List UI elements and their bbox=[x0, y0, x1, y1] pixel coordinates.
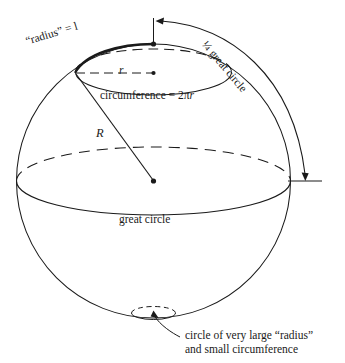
figure-canvas: “radius” = l ¼ great circle r circumfere… bbox=[0, 0, 345, 363]
small-circle-annotation-line-2: and small circumference bbox=[185, 343, 313, 357]
bottom-annotation-arrowhead bbox=[151, 311, 159, 319]
great-circle-front-solid bbox=[17, 181, 291, 215]
label-great-circle: great circle bbox=[119, 213, 170, 227]
quarter-arc-arrowhead-top bbox=[156, 18, 165, 25]
circumference-text: circumference = 2 bbox=[100, 89, 184, 101]
label-sphere-radius-R: R bbox=[96, 126, 104, 141]
sphere-diagram-svg bbox=[0, 0, 345, 363]
radius-r-symbol: r bbox=[190, 89, 194, 101]
quarter-arc-arrowhead-bottom bbox=[302, 173, 309, 182]
great-circle-back-dashed bbox=[17, 147, 291, 181]
small-circle-center-dot bbox=[151, 71, 155, 75]
small-circle-annotation-line-1: circle of very large “radius” bbox=[185, 329, 313, 341]
radius-arc-thick bbox=[76, 44, 154, 72]
label-circumference-formula: circumference = 2πr bbox=[100, 89, 194, 103]
sphere-center-dot bbox=[151, 178, 156, 183]
label-small-circle-annotation: circle of very large “radius” and small … bbox=[185, 329, 313, 356]
label-small-circle-radius-r: r bbox=[119, 64, 123, 78]
